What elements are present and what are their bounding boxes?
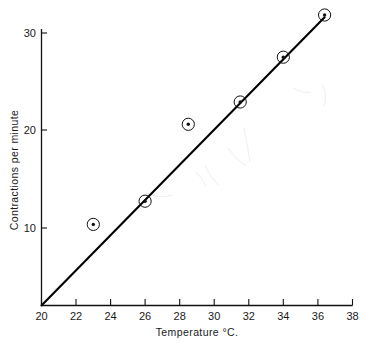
x-tick-label: 34: [277, 310, 289, 322]
x-tick-label: 30: [208, 310, 220, 322]
x-tick-label: 24: [104, 310, 116, 322]
x-tick-labels: 20 22 24 26 28 30 32 34 36 38: [35, 310, 358, 322]
data-point-marker: [139, 195, 151, 207]
scatter-plot: 30 20 10 20 22 24 26 28 30 32 34 36 38 T…: [0, 0, 377, 344]
y-axis-title: Contractions per minute: [8, 110, 20, 231]
data-point-marker: [277, 51, 289, 63]
data-point-marker: [319, 9, 331, 21]
chart-page: 30 20 10 20 22 24 26 28 30 32 34 36 38 T…: [0, 0, 377, 344]
y-tick-labels: 30 20 10: [24, 27, 36, 234]
data-point-marker: [182, 118, 194, 130]
x-tick-label: 22: [70, 310, 82, 322]
x-tick-label: 32: [243, 310, 255, 322]
x-tick-label: 36: [312, 310, 324, 322]
y-tick-label: 30: [24, 27, 36, 39]
data-point-marker: [87, 218, 99, 230]
x-tick-label: 26: [139, 310, 151, 322]
x-axis-title: Temperature °C.: [156, 326, 239, 338]
x-tick-label: 28: [174, 310, 186, 322]
data-points: [87, 9, 331, 231]
y-tick-marks: [42, 33, 48, 228]
fitted-line: [42, 17, 325, 305]
y-tick-label: 10: [24, 222, 36, 234]
x-tick-marks: [42, 299, 353, 306]
y-tick-label: 20: [24, 124, 36, 136]
scan-artifacts: [146, 84, 326, 197]
data-point-marker: [234, 96, 246, 108]
x-tick-label: 38: [346, 310, 358, 322]
x-tick-label: 20: [35, 310, 47, 322]
